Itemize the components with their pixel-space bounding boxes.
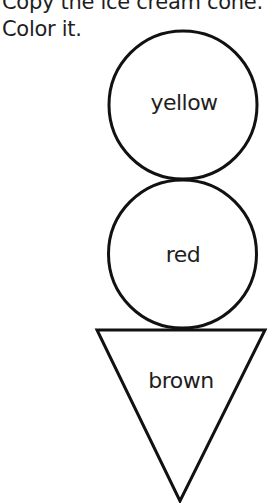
scoop-bottom: red <box>109 180 257 328</box>
cone: brown <box>97 330 265 501</box>
scoop-bottom-label: red <box>166 242 201 267</box>
cone-triangle <box>97 330 265 501</box>
ice-cream-cone-figure: brown red yellow <box>0 0 273 503</box>
cone-label: brown <box>148 368 213 393</box>
scoop-top-label: yellow <box>150 90 218 115</box>
scoop-top: yellow <box>109 31 257 179</box>
